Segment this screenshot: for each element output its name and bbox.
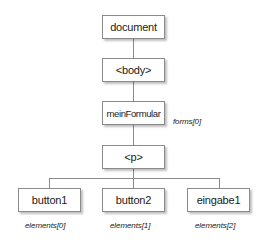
node-document: document bbox=[102, 15, 165, 39]
node-document-label: document bbox=[110, 21, 157, 33]
node-button2-label: button2 bbox=[116, 194, 151, 206]
eingabe1-annotation: elements[2] bbox=[195, 221, 235, 230]
edge-p-button1 bbox=[49, 178, 50, 188]
node-eingabe1: eingabe1 bbox=[187, 188, 250, 212]
edge-body-form bbox=[133, 82, 134, 101]
button2-annotation: elements[1] bbox=[110, 221, 150, 230]
node-body: <body> bbox=[102, 58, 165, 82]
edge-document-body bbox=[133, 39, 134, 58]
node-form: meinFormular bbox=[102, 101, 165, 125]
edge-p-trunk bbox=[133, 169, 134, 178]
node-p-label: <p> bbox=[124, 151, 142, 163]
edge-form-p bbox=[133, 125, 134, 145]
node-button1-label: button1 bbox=[32, 194, 67, 206]
node-p: <p> bbox=[102, 145, 165, 169]
node-form-label: meinFormular bbox=[107, 108, 161, 119]
form-annotation: forms[0] bbox=[173, 117, 201, 126]
node-eingabe1-label: eingabe1 bbox=[197, 194, 241, 206]
edge-p-button2 bbox=[133, 178, 134, 188]
node-body-label: <body> bbox=[116, 64, 152, 76]
button1-annotation: elements[0] bbox=[25, 221, 65, 230]
node-button2: button2 bbox=[102, 188, 165, 212]
edge-children-bar bbox=[49, 178, 220, 179]
node-button1: button1 bbox=[18, 188, 81, 212]
edge-p-eingabe1 bbox=[219, 178, 220, 188]
